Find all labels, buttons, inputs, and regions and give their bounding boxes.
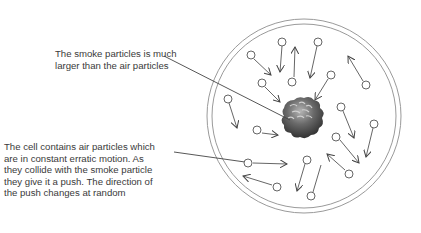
air-particle — [315, 71, 335, 100]
air-particle — [253, 126, 278, 135]
air-particle — [244, 159, 287, 167]
air-particle — [224, 95, 237, 128]
air-particle — [348, 56, 370, 89]
brownian-motion-diagram — [0, 0, 421, 233]
air-particle — [332, 133, 359, 163]
air-particle — [327, 154, 353, 178]
air-particle — [278, 38, 286, 72]
air-particle — [247, 51, 271, 75]
smoke-particle — [282, 97, 324, 138]
air-particle — [258, 79, 280, 102]
air-pointer-line — [174, 152, 245, 162]
air-particle — [366, 120, 378, 157]
air-particle — [288, 47, 296, 86]
air-particle — [297, 156, 311, 191]
air-particle — [337, 103, 354, 138]
air-particle — [310, 38, 322, 78]
air-particle — [307, 165, 321, 200]
air-particle — [243, 176, 281, 191]
